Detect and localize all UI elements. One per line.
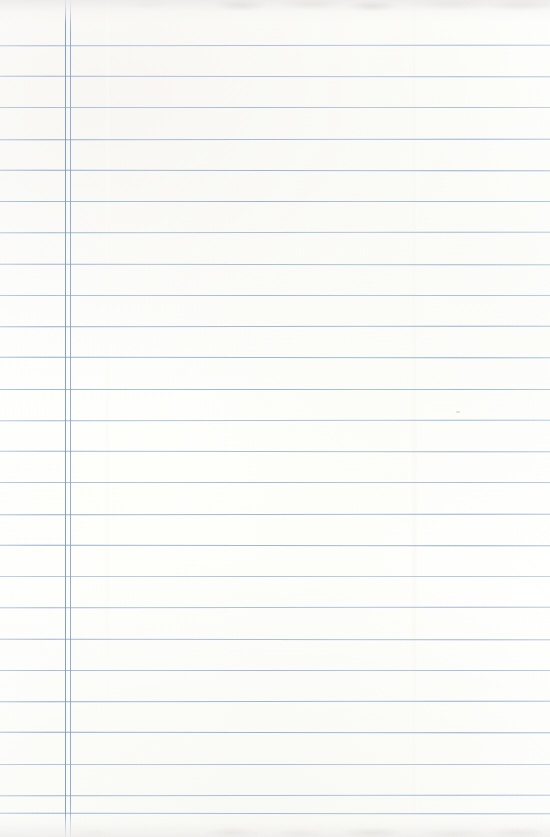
writing-area[interactable] [70, 45, 550, 813]
lined-paper-scan [0, 0, 550, 837]
